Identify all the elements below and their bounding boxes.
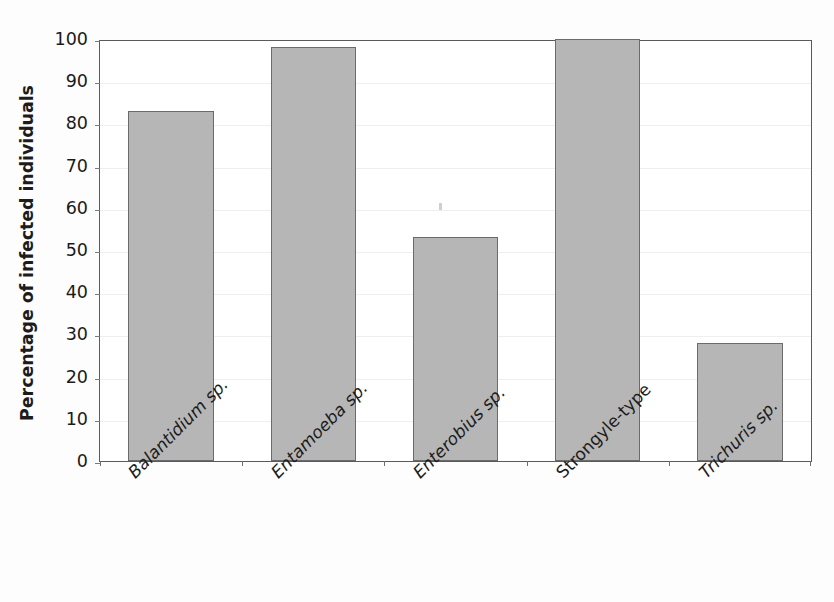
x-label-slot: Entamoeba sp. bbox=[242, 464, 385, 599]
x-label-slot: Strongyle-type bbox=[527, 464, 670, 599]
scan-artifact bbox=[439, 203, 442, 210]
y-tick-label: 10 bbox=[48, 411, 88, 429]
y-tick-label: 90 bbox=[48, 73, 88, 91]
y-tick-label: 70 bbox=[48, 158, 88, 176]
y-tick-label: 30 bbox=[48, 327, 88, 345]
y-tick-label: 0 bbox=[48, 453, 88, 471]
y-tick-label: 80 bbox=[48, 116, 88, 134]
x-label-slot: Trichuris sp. bbox=[669, 464, 812, 599]
x-label-slot: Balantidium sp. bbox=[99, 464, 242, 599]
y-tick-label: 50 bbox=[48, 242, 88, 260]
y-axis-tick-labels: 0102030405060708090100 bbox=[48, 40, 88, 462]
y-axis-title: Percentage of infected individuals bbox=[17, 85, 37, 421]
y-tick-label: 40 bbox=[48, 284, 88, 302]
y-tick-label: 60 bbox=[48, 200, 88, 218]
bar-slot bbox=[669, 41, 811, 461]
y-tick-label: 100 bbox=[48, 31, 88, 49]
y-axis-title-container: Percentage of infected individuals bbox=[6, 40, 48, 465]
x-axis-tick-labels: Balantidium sp.Entamoeba sp.Enterobius s… bbox=[99, 464, 812, 599]
y-tick-label: 20 bbox=[48, 369, 88, 387]
chart-figure: Percentage of infected individuals 01020… bbox=[0, 0, 834, 602]
x-label-slot: Enterobius sp. bbox=[384, 464, 527, 599]
